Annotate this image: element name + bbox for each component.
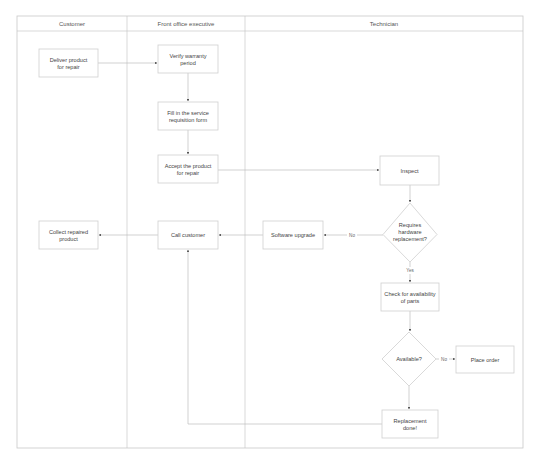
swimlane-diagram: Customer Front office executive Technici… [0,0,537,465]
node-label: Requires [399,222,422,228]
lane-title-customer: Customer [59,21,85,27]
lane-title-front-office: Front office executive [158,21,216,27]
node-label: hardware [398,229,421,235]
node-software-upgrade[interactable]: Software upgrade [263,221,323,249]
edge-label-no-requires: No [349,233,355,238]
node-inspect[interactable]: Inspect [380,156,439,185]
lane-title-technician: Technician [370,21,398,27]
node-label: period [180,60,196,66]
node-replacement-done[interactable]: Replacement done! [382,410,438,438]
node-label: Collect repaired [49,229,88,235]
node-label: Accept the product [165,163,212,169]
edge-label-no-available: No [441,357,447,362]
node-label: done! [403,425,417,431]
node-label: Fill in the service [167,110,209,116]
node-label: Available? [396,356,422,362]
node-accept-product[interactable]: Accept the product for repair [158,155,218,183]
decision-available[interactable]: Available? [382,332,436,386]
node-label: requisition form [169,117,208,123]
node-check-parts[interactable]: Check for availability of parts [381,283,439,311]
node-label: product [59,236,78,242]
decision-requires-hardware[interactable]: Requires hardware replacement? [383,203,437,262]
edge-label-yes-requires: Yes [406,268,414,273]
node-label: Check for availability [384,291,436,297]
node-label: Software upgrade [271,232,315,238]
node-deliver-product[interactable]: Deliver product for repair [39,49,98,77]
node-label: Place order [471,357,500,363]
node-label: Call customer [171,232,205,238]
node-verify-warranty[interactable]: Verify warranty period [158,45,218,73]
node-label: for repair [177,170,200,176]
node-label: for repair [57,64,80,70]
node-label: Deliver product [50,57,88,63]
node-call-customer[interactable]: Call customer [158,221,218,249]
node-place-order[interactable]: Place order [456,346,514,373]
node-label: of parts [401,298,420,304]
node-label: Replacement [394,418,427,424]
node-label: Inspect [400,168,418,174]
node-label: replacement? [393,236,427,242]
edge-replacement-call [188,250,382,424]
node-fill-service-form[interactable]: Fill in the service requisition form [158,102,218,130]
node-label: Verify warranty [170,53,207,59]
node-collect-product[interactable]: Collect repaired product [39,221,98,249]
